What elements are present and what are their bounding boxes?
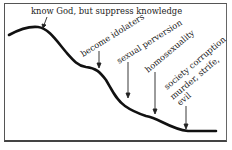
arrow-stage-4 — [153, 72, 157, 114]
arrow-stage-3 — [126, 62, 130, 98]
arrow-stage-2 — [97, 51, 101, 68]
label-stage-1: know God, but suppress knowledge — [31, 6, 182, 16]
decline-diagram: know God, but suppress knowledge become … — [0, 0, 232, 150]
arrow-stage-1 — [42, 17, 47, 28]
arrow-stage-5 — [184, 106, 188, 129]
